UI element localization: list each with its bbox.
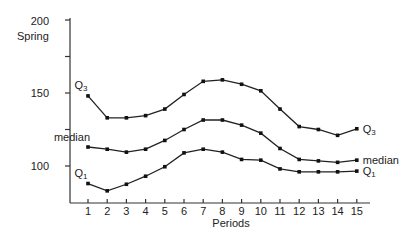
x-tick-label: 3 [123,205,129,217]
x-tick-label: 11 [274,205,285,217]
data-point [355,158,359,162]
data-point [86,94,90,98]
y-tick-100: 100 [31,160,49,172]
data-point [336,161,340,165]
x-tick-label: 12 [293,205,305,217]
data-point [297,158,301,162]
series-label-left: Q1 [74,167,88,181]
data-point [125,150,129,154]
x-tick-label: 8 [219,205,225,217]
x-tick-label: 13 [312,205,324,217]
y-axis-label: Spring [17,30,49,42]
data-point [182,128,186,132]
x-tick-label: 10 [255,205,267,217]
data-point [144,114,148,118]
series-median: medianmedian [54,118,399,166]
data-point [125,182,129,186]
data-point [355,127,359,131]
chart: 123456789101112131415 Q3Q3medianmedianQ1… [0,0,411,239]
data-point [163,107,167,111]
data-point [86,182,90,186]
data-point [86,145,90,149]
data-point [201,118,205,122]
x-tick-label: 4 [143,205,149,217]
x-tick-label: 14 [331,205,343,217]
series-line [88,80,357,135]
data-point [240,158,244,162]
x-tick-label: 1 [85,205,91,217]
data-point [317,128,321,132]
x-tick-label: 15 [351,205,363,217]
data-point [182,93,186,97]
data-point [163,165,167,169]
data-point [278,147,282,151]
data-point [105,116,109,120]
data-point [201,147,205,151]
data-point [144,147,148,151]
x-axis-label: Periods [212,217,250,229]
data-point [278,167,282,171]
y-tick-150: 150 [31,87,49,99]
series-q1: Q1Q1 [74,147,376,192]
data-point [221,150,225,154]
data-point [278,107,282,111]
data-point [221,118,225,122]
data-point [105,147,109,151]
data-point [105,189,109,193]
series-line [88,120,357,162]
data-point [336,134,340,138]
series-line [88,149,357,191]
x-tick-label: 6 [181,205,187,217]
series-label-right: Q1 [363,165,377,179]
data-point [259,131,263,135]
x-tick-label: 5 [162,205,168,217]
data-point [201,80,205,84]
data-point [297,125,301,129]
x-tick-label: 2 [104,205,110,217]
data-point [163,139,167,143]
series-label-right: Q3 [363,123,377,137]
data-point [317,170,321,174]
data-point [221,78,225,82]
x-tick-label: 9 [239,205,245,217]
data-point [144,174,148,178]
data-point [355,169,359,173]
x-tick-label: 7 [200,205,206,217]
series-q3: Q3Q3 [74,78,376,137]
data-point [259,89,263,93]
series-label-left: median [54,131,90,143]
data-point [182,151,186,155]
data-point [317,159,321,163]
data-point [336,170,340,174]
data-point [240,123,244,127]
series-label-left: Q3 [74,79,88,93]
data-point [259,158,263,162]
chart-series: Q3Q3medianmedianQ1Q1 [54,78,399,193]
data-point [240,82,244,86]
y-tick-200: 200 [31,15,49,27]
data-point [297,170,301,174]
data-point [125,116,129,120]
